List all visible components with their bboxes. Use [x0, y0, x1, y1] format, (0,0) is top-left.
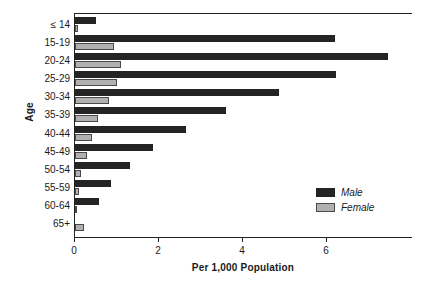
x-axis-tick-mark — [74, 237, 75, 242]
bar-male — [75, 89, 279, 96]
x-axis-tick-mark — [326, 237, 327, 242]
legend-item-female: Female — [316, 201, 408, 216]
y-axis-tick-label: 40-44 — [8, 129, 70, 139]
y-axis-tick-label: 30-34 — [8, 92, 70, 102]
bar-female — [75, 188, 79, 195]
y-axis-tick-labels: ≤ 1415-1920-2425-2930-3435-3940-4445-495… — [6, 13, 70, 238]
legend-swatch-male-icon — [316, 188, 335, 197]
bar-male — [75, 198, 99, 205]
x-axis-tick-label: 6 — [314, 245, 338, 256]
bar-male — [75, 107, 226, 114]
bar-female — [75, 25, 78, 32]
y-axis-tick-label: 25-29 — [8, 74, 70, 84]
y-axis-tick-label: 60-64 — [8, 201, 70, 211]
bar-male — [75, 53, 388, 60]
y-axis-tick-label: 55-59 — [8, 183, 70, 193]
legend-swatch-female-icon — [316, 203, 335, 212]
bar-female — [75, 224, 84, 231]
bar-male — [75, 71, 336, 78]
bar-female — [75, 43, 114, 50]
bar-male — [75, 126, 186, 133]
bar-male — [75, 180, 111, 187]
x-axis-line — [74, 237, 412, 238]
x-axis-tick-label: 0 — [62, 245, 86, 256]
bar-female — [75, 79, 117, 86]
bar-female — [75, 170, 81, 177]
bar-female — [75, 134, 92, 141]
plot-frame-top — [74, 13, 412, 14]
x-axis-tick-label: 2 — [146, 245, 170, 256]
y-axis-tick-label: 65+ — [8, 219, 70, 229]
bar-male — [75, 17, 96, 24]
x-axis-tick-mark — [242, 237, 243, 242]
y-axis-tick-label: ≤ 14 — [8, 20, 70, 30]
y-axis-tick-label: 35-39 — [8, 110, 70, 120]
bar-female — [75, 152, 87, 159]
y-axis-tick-label: 45-49 — [8, 147, 70, 157]
bar-female — [75, 61, 121, 68]
bar-female — [75, 97, 109, 104]
legend-item-male: Male — [316, 186, 408, 201]
x-axis-tick-label: 4 — [230, 245, 254, 256]
bar-male — [75, 35, 335, 42]
bar-male — [75, 162, 130, 169]
bar-female — [75, 115, 98, 122]
y-axis-tick-label: 15-19 — [8, 38, 70, 48]
y-axis-tick-label: 50-54 — [8, 165, 70, 175]
x-axis-title: Per 1,000 Population — [74, 262, 412, 273]
chart-legend: Male Female — [316, 186, 408, 216]
legend-label-female: Female — [341, 201, 374, 214]
bar-chart: Age ≤ 1415-1920-2425-2930-3435-3940-4445… — [0, 0, 426, 289]
bar-female — [75, 206, 77, 213]
legend-label-male: Male — [341, 186, 363, 199]
bar-male — [75, 144, 153, 151]
y-axis-tick-label: 20-24 — [8, 56, 70, 66]
x-axis-tick-mark — [158, 237, 159, 242]
